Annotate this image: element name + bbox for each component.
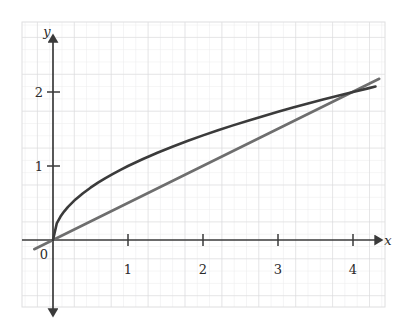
x-tick-label-3: 3 (274, 262, 282, 277)
plot-canvas: y x 0 1 2 3 4 1 2 (0, 0, 407, 329)
y-axis-label: y (42, 24, 51, 39)
chart-figure: y x 0 1 2 3 4 1 2 (0, 0, 407, 329)
x-tick-label-1: 1 (124, 262, 132, 277)
x-axis-label: x (384, 233, 392, 248)
origin-label: 0 (40, 247, 48, 262)
y-tick-label-2: 2 (35, 85, 43, 100)
x-tick-label-2: 2 (199, 262, 207, 277)
x-tick-label-4: 4 (349, 262, 357, 277)
y-tick-label-1: 1 (35, 159, 43, 174)
